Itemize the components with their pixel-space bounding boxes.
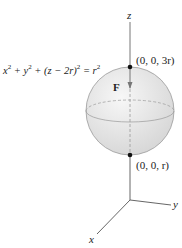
point-bottom-label: (0, 0, r) [136,160,169,171]
y-axis [130,200,171,205]
diagram-canvas [0,0,182,248]
eq-sup-4: 2 [97,63,101,71]
eq-part-c: + y [11,65,28,76]
x-axis-label: x [89,234,94,245]
point-top [128,65,133,70]
point-bottom [128,153,133,158]
eq-part-e: + (z − 2r) [32,65,77,76]
sphere-equation: x2 + y2 + (z − 2r)2 = r2 [3,64,100,76]
z-axis-label: z [127,10,131,21]
eq-part-g: = r [80,65,96,76]
force-label: F [113,82,120,93]
y-axis-label: y [173,199,178,210]
point-top-label: (0, 0, 3r) [136,55,175,66]
x-axis [97,200,130,234]
